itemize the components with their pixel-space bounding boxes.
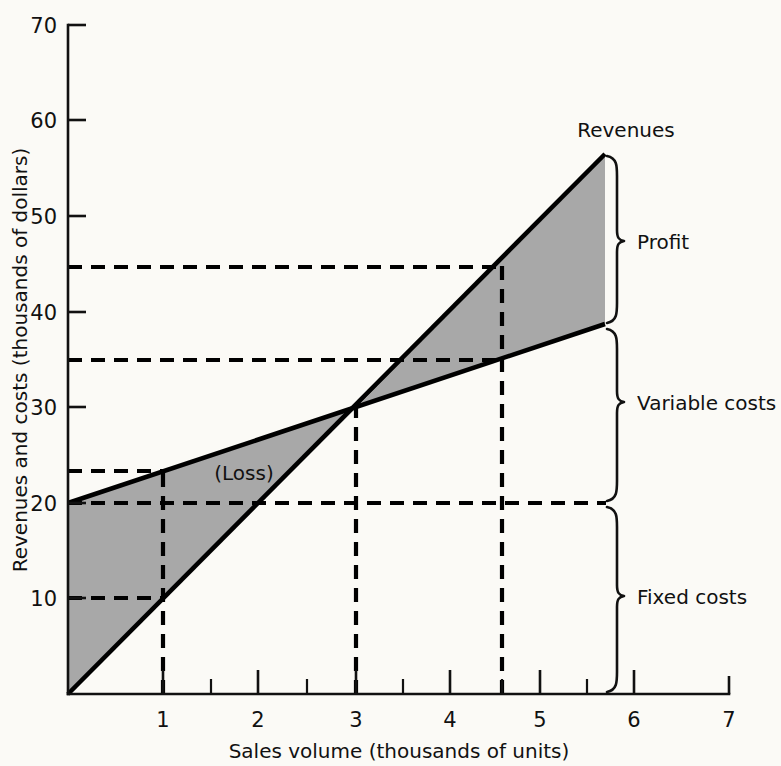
- break-even-chart: 70 60 50 40 30 20 10 1 2 3 4: [0, 0, 781, 766]
- series-lines: [68, 154, 605, 694]
- loss-label: (Loss): [214, 461, 273, 485]
- y-tick-label-50: 50: [30, 205, 57, 229]
- y-tick-label-60: 60: [30, 109, 57, 133]
- category-braces: Profit Variable costs Fixed costs: [607, 156, 776, 692]
- x-axis-ticks: [163, 670, 634, 694]
- profit-label: Profit: [637, 230, 689, 254]
- fixed-costs-brace: [607, 507, 624, 692]
- x-axis-tick-labels: 1 2 3 4 5 6 7: [156, 708, 735, 732]
- revenues-line: [68, 154, 605, 694]
- x-tick-label-2: 2: [251, 708, 264, 732]
- x-axis-title: Sales volume (thousands of units): [229, 739, 570, 763]
- x-tick-label-7: 7: [722, 708, 735, 732]
- y-tick-label-30: 30: [30, 396, 57, 420]
- total-costs-line: [68, 324, 605, 503]
- y-tick-label-20: 20: [30, 492, 57, 516]
- y-axis-tick-labels: 70 60 50 40 30 20 10: [30, 14, 57, 611]
- chart-canvas: 70 60 50 40 30 20 10 1 2 3 4: [0, 0, 781, 766]
- x-tick-label-3: 3: [349, 708, 362, 732]
- x-tick-label-5: 5: [533, 708, 546, 732]
- variable-costs-brace: [607, 329, 624, 501]
- fixed-costs-label: Fixed costs: [637, 585, 747, 609]
- variable-costs-label: Variable costs: [637, 391, 776, 415]
- profit-brace: [607, 156, 624, 323]
- x-tick-label-1: 1: [156, 708, 169, 732]
- y-axis-title: Revenues and costs (thousands of dollars…: [8, 148, 32, 573]
- y-tick-label-40: 40: [30, 301, 57, 325]
- revenues-label: Revenues: [577, 118, 675, 142]
- x-tick-label-6: 6: [627, 708, 640, 732]
- y-tick-label-70: 70: [30, 14, 57, 38]
- x-tick-label-4: 4: [443, 708, 456, 732]
- y-tick-label-10: 10: [30, 587, 57, 611]
